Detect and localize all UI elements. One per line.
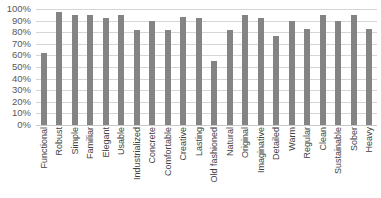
x-axis-slot: Familiar [83, 127, 99, 198]
x-axis-slot: Regular [300, 127, 316, 198]
x-axis-tick-label: Detailed [272, 127, 281, 160]
x-axis-slot: Sober [346, 127, 362, 198]
x-axis: FunctionalRobustSimpleFamiliarElegantUsa… [36, 127, 377, 198]
bar [211, 61, 217, 125]
y-axis-tick-label: 40% [12, 74, 31, 84]
y-axis-tick-label: 100% [7, 4, 31, 14]
x-axis-slot: Concrete [145, 127, 161, 198]
x-axis-tick-label: Elegant [101, 127, 110, 158]
bar [242, 15, 248, 125]
x-axis-slot: Detailed [269, 127, 285, 198]
bar-slot [36, 9, 52, 125]
bar [103, 18, 109, 125]
bar [351, 15, 357, 125]
x-axis-tick-label: Familiar [86, 127, 95, 159]
bar-slot [253, 9, 269, 125]
x-axis-slot: Old fashioned [207, 127, 223, 198]
bar-slot [129, 9, 145, 125]
x-axis-tick-label: Functional [39, 127, 48, 169]
x-axis-tick-label: Industrialized [132, 127, 141, 180]
x-axis-slot: Imaginative [253, 127, 269, 198]
bar [366, 29, 372, 125]
y-axis-tick-label: 20% [12, 97, 31, 107]
gridline [36, 125, 377, 126]
bar-slot [300, 9, 316, 125]
x-axis-tick-label: Old fashioned [210, 127, 219, 183]
x-axis-slot: Elegant [98, 127, 114, 198]
bar-slot [83, 9, 99, 125]
y-axis: 100%90%80%70%60%50%40%30%20%10%0% [0, 0, 34, 134]
x-axis-slot: Original [238, 127, 254, 198]
bar-slot [238, 9, 254, 125]
x-axis-tick-label: Original [241, 127, 250, 158]
x-axis-tick-label: Regular [303, 127, 312, 159]
x-axis-tick-label: Warm [287, 127, 296, 151]
bar [196, 18, 202, 125]
bar-slot [207, 9, 223, 125]
bar-slot [145, 9, 161, 125]
x-axis-slot: Sustainable [331, 127, 347, 198]
bar [118, 15, 124, 125]
bar-slot [331, 9, 347, 125]
x-axis-slot: Simple [67, 127, 83, 198]
x-axis-tick-label: Robust [55, 127, 64, 156]
x-axis-tick-label: Natural [225, 127, 234, 156]
bar-slot [315, 9, 331, 125]
bar-slot [67, 9, 83, 125]
x-axis-slot: Natural [222, 127, 238, 198]
y-axis-tick-label: 60% [12, 51, 31, 61]
x-axis-tick-label: Comfortable [163, 127, 172, 176]
x-axis-slot: Comfortable [160, 127, 176, 198]
x-axis-slot: Usable [114, 127, 130, 198]
bar [165, 30, 171, 125]
bar-chart-figure: 100%90%80%70%60%50%40%30%20%10%0% Functi… [0, 0, 381, 198]
bar-slot [284, 9, 300, 125]
x-axis-tick-label: Lasting [194, 127, 203, 156]
x-axis-tick-label: Imaginative [256, 127, 265, 173]
y-axis-tick-label: 90% [12, 16, 31, 26]
bar-slot [52, 9, 68, 125]
x-axis-tick-label: Concrete [148, 127, 157, 164]
y-axis-tick-label: 70% [12, 39, 31, 49]
x-axis-tick-label: Sustainable [334, 127, 343, 174]
bar [134, 30, 140, 125]
bar [87, 15, 93, 125]
bar [258, 18, 264, 125]
bar [320, 15, 326, 125]
bar [149, 21, 155, 125]
bar-slot [114, 9, 130, 125]
bar-slot [98, 9, 114, 125]
x-axis-tick-label: Clean [318, 127, 327, 151]
y-axis-tick-label: 50% [12, 62, 31, 72]
bar-slot [346, 9, 362, 125]
x-axis-tick-label: Usable [117, 127, 126, 155]
bar-slot [222, 9, 238, 125]
bar [180, 17, 186, 125]
x-axis-slot: Creative [176, 127, 192, 198]
x-axis-tick-label: Simple [70, 127, 79, 155]
x-axis-slot: Robust [52, 127, 68, 198]
bar-slot [191, 9, 207, 125]
bar [335, 21, 341, 125]
bar-slot [160, 9, 176, 125]
bar [304, 29, 310, 125]
y-axis-tick-label: 80% [12, 27, 31, 37]
y-axis-tick-label: 10% [12, 109, 31, 119]
x-axis-slot: Functional [36, 127, 52, 198]
bar [56, 12, 62, 125]
bar [72, 15, 78, 125]
plot-area [36, 9, 377, 125]
x-axis-tick-label: Heavy [365, 127, 374, 153]
bar-slot [362, 9, 378, 125]
y-axis-tick-label: 0% [17, 120, 31, 130]
bar [273, 36, 279, 125]
bar-slot [269, 9, 285, 125]
bar [227, 30, 233, 125]
x-axis-slot: Warm [284, 127, 300, 198]
x-axis-tick-label: Sober [349, 127, 358, 151]
x-axis-slot: Lasting [191, 127, 207, 198]
x-axis-slot: Clean [315, 127, 331, 198]
bar [289, 21, 295, 125]
y-axis-tick-label: 30% [12, 85, 31, 95]
bar-series [36, 9, 377, 125]
